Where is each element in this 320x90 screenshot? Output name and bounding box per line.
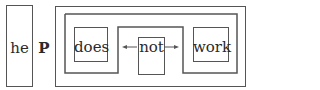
does-label: does	[74, 40, 108, 55]
not-label: not	[138, 40, 165, 55]
work-label: work	[193, 40, 229, 55]
